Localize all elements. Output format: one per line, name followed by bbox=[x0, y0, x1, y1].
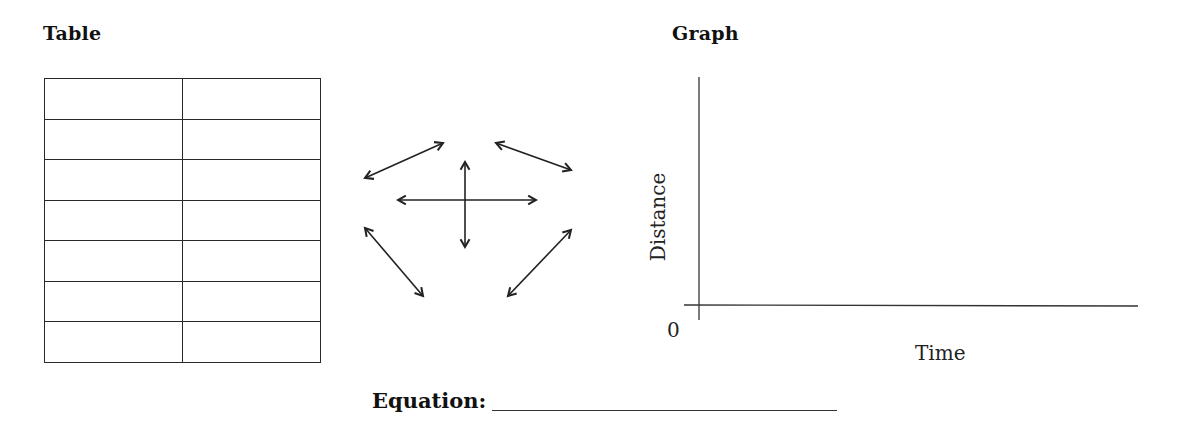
equation-answer-blank[interactable] bbox=[492, 388, 837, 411]
equation-label: Equation: bbox=[372, 388, 486, 413]
origin-label: 0 bbox=[667, 318, 680, 342]
arrows-diagram bbox=[0, 0, 1190, 421]
double-arrow-lower-left-icon bbox=[365, 228, 423, 296]
double-arrow-lower-right-icon bbox=[508, 230, 571, 296]
equation-row: Equation: bbox=[372, 388, 837, 413]
graph-heading: Graph bbox=[672, 22, 739, 44]
double-arrow-upper-right-icon bbox=[496, 143, 571, 170]
double-arrow-upper-left-icon bbox=[365, 143, 443, 178]
x-axis-label: Time bbox=[915, 341, 966, 365]
x-axis bbox=[684, 305, 1138, 306]
y-axis-label: Distance bbox=[646, 157, 670, 277]
